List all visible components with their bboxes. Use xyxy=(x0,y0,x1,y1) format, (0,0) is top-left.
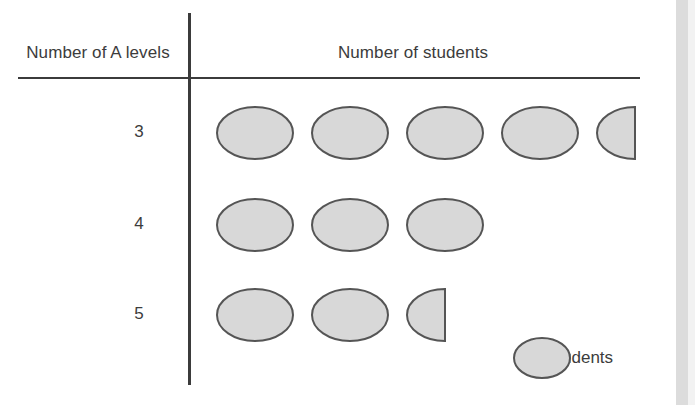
legend: = 2 students xyxy=(512,348,613,368)
row-label-4: 4 xyxy=(100,214,178,234)
pictograph-figure: Number of A levels Number of students 34… xyxy=(0,0,695,405)
symbol-half-icon xyxy=(595,105,675,161)
symbol-half-icon xyxy=(405,287,485,343)
symbol-full-icon xyxy=(500,105,580,161)
vertical-divider-line xyxy=(188,13,191,385)
symbol-full-icon xyxy=(405,197,485,253)
symbol-full-icon xyxy=(215,287,295,343)
symbol-full-icon xyxy=(310,197,390,253)
symbol-full-icon xyxy=(215,197,295,253)
legend-symbol-icon xyxy=(512,336,572,380)
row-label-3: 3 xyxy=(100,122,178,142)
horizontal-header-line xyxy=(18,77,640,79)
right-edge-band-highlight xyxy=(688,0,695,405)
row-label-5: 5 xyxy=(100,304,178,324)
symbol-full-icon xyxy=(405,105,485,161)
symbol-full-icon xyxy=(215,105,295,161)
symbol-full-icon xyxy=(310,287,390,343)
column-header-value: Number of students xyxy=(205,43,621,63)
column-header-category: Number of A levels xyxy=(18,43,178,63)
symbol-full-icon xyxy=(310,105,390,161)
right-edge-band xyxy=(676,0,688,405)
